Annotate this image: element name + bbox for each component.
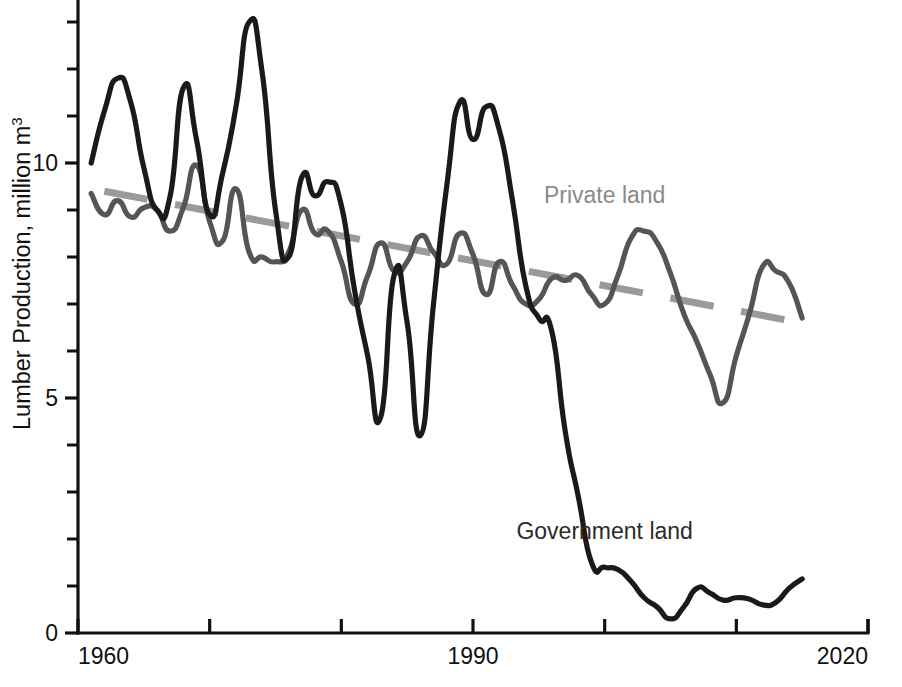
y-axis-title-main: Lumber Production, million m — [9, 126, 35, 430]
x-tick-label: 1990 — [447, 643, 498, 669]
x-axis-ticks — [78, 619, 868, 633]
x-tick-label: 1960 — [78, 643, 129, 669]
y-tick-label: 0 — [45, 620, 58, 646]
y-tick-labels: 0510 — [32, 150, 58, 646]
x-tick-labels: 196019902020 — [78, 643, 868, 669]
svg-text:Lumber Production, million m3: Lumber Production, million m3 — [8, 117, 35, 430]
y-axis-title-superscript: 3 — [8, 117, 25, 125]
private-land-label: Private land — [544, 182, 665, 208]
chart-canvas: 0510 196019902020 Private land Governmen… — [0, 0, 902, 687]
y-axis-ticks — [65, 22, 78, 633]
government-land-label: Government land — [516, 518, 692, 544]
series-annotations: Private land Government land — [516, 182, 692, 544]
data-series — [91, 19, 802, 619]
lumber-production-chart: 0510 196019902020 Private land Governmen… — [0, 0, 902, 687]
tick-labels: 0510 196019902020 — [32, 150, 868, 669]
y-tick-label: 5 — [45, 385, 58, 411]
y-axis-title: Lumber Production, million m3 — [8, 117, 35, 430]
y-tick-label: 10 — [32, 150, 58, 176]
x-tick-label: 2020 — [817, 643, 868, 669]
government-land-series-line — [91, 19, 802, 619]
